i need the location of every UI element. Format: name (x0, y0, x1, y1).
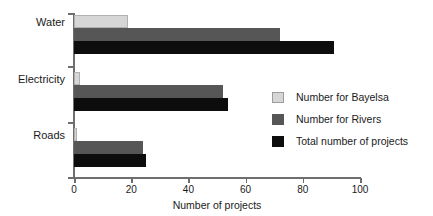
x-axis-tick-60 (246, 178, 248, 183)
x-axis-tick-40 (188, 178, 190, 183)
x-axis-tick-label-100: 100 (352, 184, 369, 196)
bar-water-series-1 (74, 28, 280, 41)
x-axis-tick-label-80: 80 (297, 184, 308, 196)
legend-swatch-icon-0 (272, 92, 284, 103)
legend-swatch-icon-1 (272, 114, 284, 125)
category-label-roads: Roads (33, 128, 65, 141)
x-axis-title: Number of projects (74, 199, 360, 212)
x-axis-tick-0 (74, 178, 76, 183)
bar-chart: WaterElectricityRoads 020406080100 Numbe… (0, 0, 433, 216)
x-axis-tick-label-20: 20 (126, 184, 137, 196)
x-axis-tick-label-0: 0 (71, 184, 77, 196)
legend-label-2: Total number of projects (296, 135, 408, 148)
bar-electricity-series-1 (74, 85, 223, 98)
category-label-water: Water (36, 15, 65, 28)
bar-electricity-series-0 (74, 72, 80, 85)
category-label-electricity: Electricity (18, 72, 65, 85)
legend-item-0: Number for Bayelsa (272, 86, 408, 108)
x-axis-tick-100 (360, 178, 362, 183)
bar-roads-series-2 (74, 154, 146, 167)
x-axis-tick-label-60: 60 (240, 184, 251, 196)
bar-water-series-0 (74, 15, 128, 28)
legend-swatch-icon-2 (272, 136, 284, 147)
bar-electricity-series-2 (74, 98, 228, 111)
legend-item-2: Total number of projects (272, 130, 408, 152)
x-axis-tick-20 (131, 178, 133, 183)
x-axis-tick-80 (303, 178, 305, 183)
bar-roads-series-0 (74, 128, 77, 141)
legend-label-0: Number for Bayelsa (296, 91, 389, 104)
legend-item-1: Number for Rivers (272, 108, 408, 130)
x-axis-tick-label-40: 40 (183, 184, 194, 196)
legend-label-1: Number for Rivers (296, 113, 381, 126)
bar-roads-series-1 (74, 141, 143, 154)
chart-legend: Number for BayelsaNumber for RiversTotal… (272, 86, 408, 152)
bar-water-series-2 (74, 41, 334, 54)
